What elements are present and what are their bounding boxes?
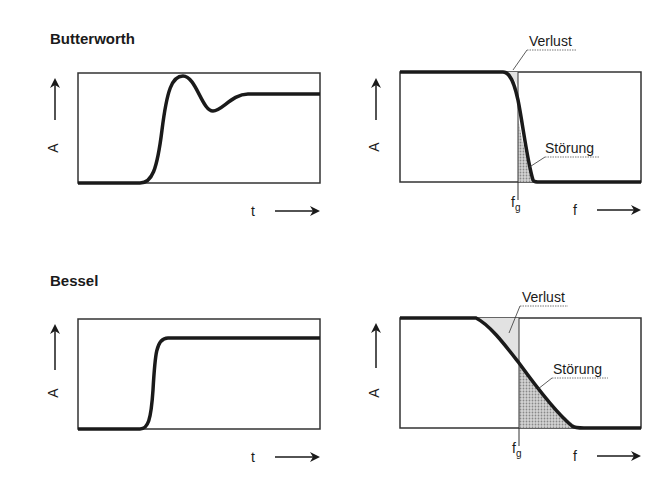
filter-diagram <box>0 0 671 493</box>
bw-time-x-label: t <box>251 203 255 219</box>
bessel-loss-label: Verlust <box>522 289 565 305</box>
bessel-cutoff-label: fg <box>512 440 521 459</box>
butterworth-frequency-response <box>376 50 641 210</box>
butterworth-step-response <box>55 73 320 211</box>
bessel-step-response <box>55 319 320 457</box>
bw-time-y-label: A <box>45 143 61 152</box>
bw-loss-label: Verlust <box>529 33 572 49</box>
bessel-time-x-label: t <box>251 449 255 465</box>
bessel-time-y-label: A <box>45 388 61 397</box>
bessel-frequency-response <box>376 306 641 456</box>
bw-cutoff-label: fg <box>511 194 520 213</box>
bessel-freq-y-label: A <box>366 388 382 397</box>
bessel-interference-label: Störung <box>553 361 602 377</box>
bw-freq-x-label: f <box>573 202 577 218</box>
bessel-freq-x-label: f <box>573 448 577 464</box>
bw-interference-label: Störung <box>545 140 594 156</box>
bw-freq-y-label: A <box>366 142 382 151</box>
